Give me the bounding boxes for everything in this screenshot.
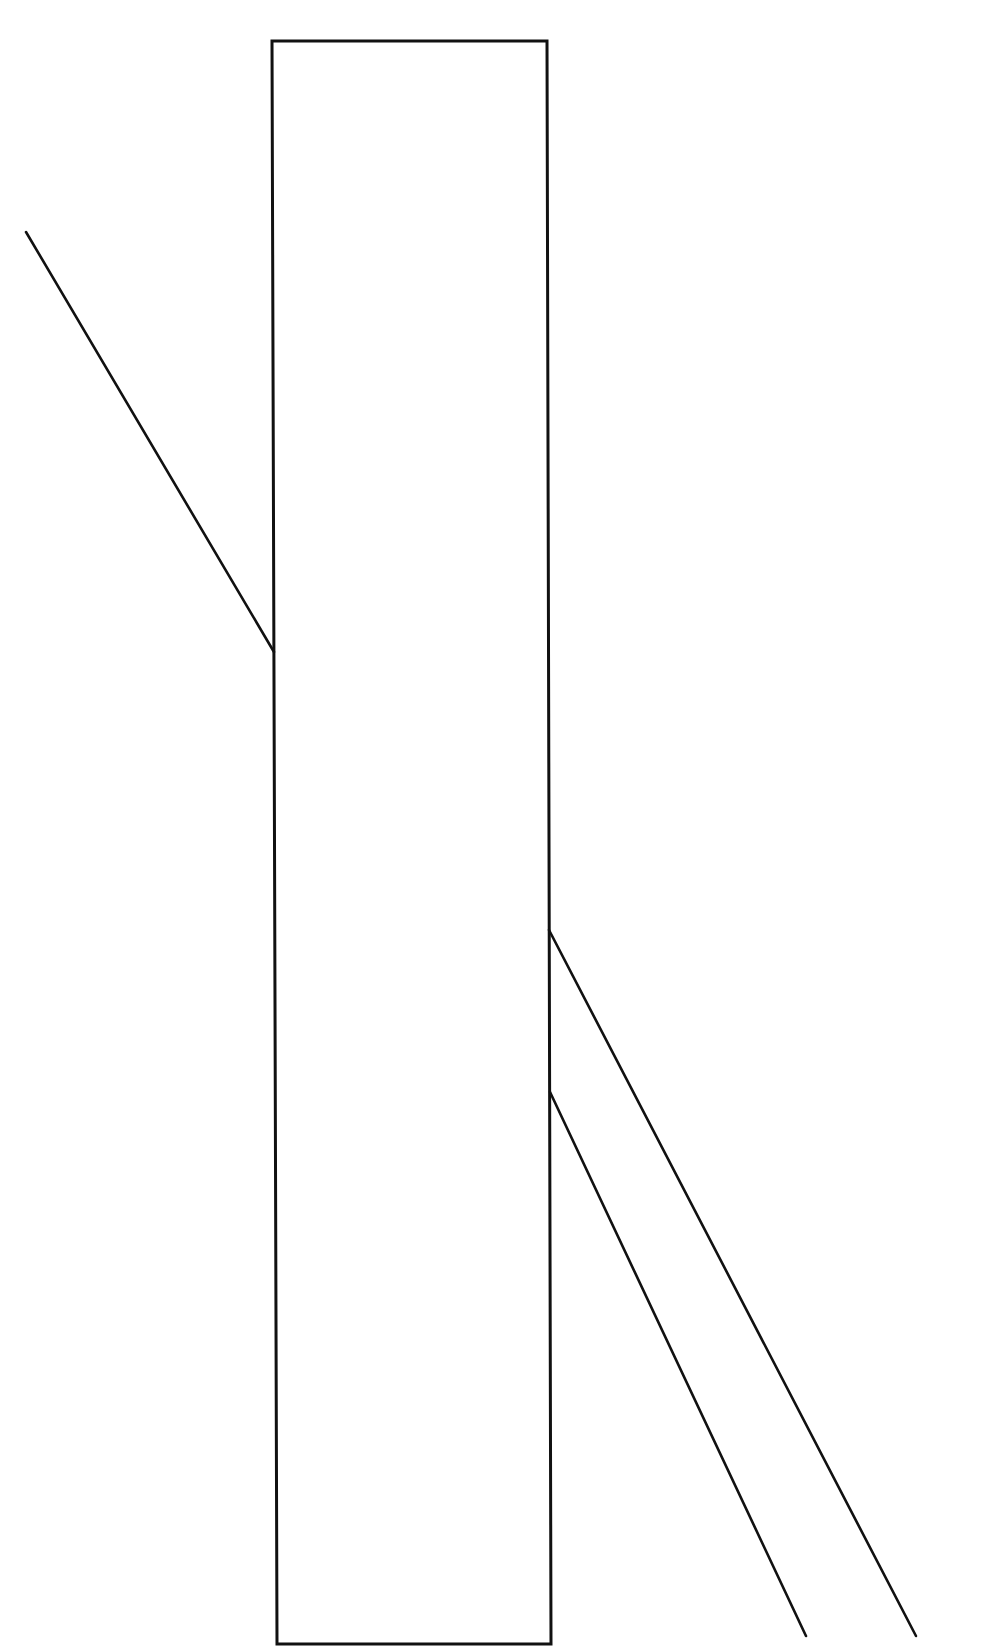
background	[0, 0, 1007, 1646]
poggendorff-diagram	[0, 0, 1007, 1646]
